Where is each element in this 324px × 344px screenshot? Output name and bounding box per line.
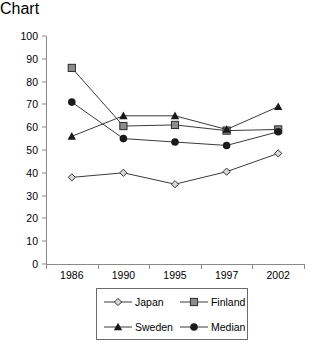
y-tick-label: 70 (26, 98, 38, 110)
data-point-open-diamond (114, 298, 121, 305)
data-point-black-circle (68, 98, 76, 106)
legend-label: Sweden (135, 321, 173, 333)
x-tick-mark (98, 264, 99, 269)
y-tick-mark (42, 127, 46, 128)
legend-item-finland[interactable]: Finland (173, 289, 247, 314)
x-tick-label: 1990 (112, 269, 135, 281)
y-tick-label: 100 (20, 30, 38, 42)
data-point-black-circle (223, 142, 231, 150)
legend-marker-black-circle (179, 321, 209, 333)
data-point-open-diamond (275, 150, 282, 157)
series-line (72, 107, 278, 137)
legend-item-japan[interactable]: Japan (97, 289, 173, 314)
x-tick-mark (201, 264, 202, 269)
x-tick-label: 2002 (267, 269, 290, 281)
data-point-gray-square (223, 127, 230, 134)
y-tick-mark (42, 172, 46, 173)
series-japan (68, 150, 282, 188)
x-axis-line (46, 264, 304, 265)
series-finland (68, 64, 282, 134)
x-tick-mark (304, 264, 305, 269)
y-tick-label: 90 (26, 53, 38, 65)
y-tick-mark (42, 150, 46, 151)
x-tick-mark (252, 264, 253, 269)
legend-marker-open-diamond (103, 296, 133, 308)
data-point-gray-square (190, 298, 197, 305)
legend-marker-gray-square (179, 296, 209, 308)
data-point-gray-square (120, 122, 127, 129)
data-point-black-triangle (171, 112, 179, 120)
x-tick-mark (46, 264, 47, 269)
y-tick-label: 50 (26, 144, 38, 156)
data-point-gray-square (275, 126, 282, 133)
data-point-open-diamond (120, 169, 127, 176)
y-tick-mark (42, 81, 46, 82)
series-median (68, 98, 282, 149)
y-axis-line (46, 36, 47, 264)
y-tick-mark (42, 195, 46, 196)
data-point-gray-square (171, 121, 178, 128)
data-point-open-diamond (171, 181, 178, 188)
legend-marker-black-triangle (103, 321, 133, 333)
y-tick-mark (42, 218, 46, 219)
series-line (72, 153, 278, 184)
data-point-black-triangle (222, 125, 230, 133)
data-point-black-circle (120, 135, 128, 143)
y-tick-mark (42, 104, 46, 105)
y-tick-label: 80 (26, 76, 38, 88)
data-point-black-triangle (119, 112, 127, 120)
legend-item-median[interactable]: Median (173, 314, 247, 339)
data-point-black-circle (171, 138, 179, 146)
x-tick-label: 1986 (60, 269, 83, 281)
data-point-open-diamond (223, 168, 230, 175)
y-tick-label: 30 (26, 190, 38, 202)
y-tick-label: 20 (26, 212, 38, 224)
data-point-black-triangle (68, 132, 76, 140)
series-line (72, 102, 278, 145)
y-tick-mark (42, 36, 46, 37)
data-point-black-circle (274, 128, 282, 136)
data-point-black-triangle (274, 102, 282, 110)
data-point-black-circle (190, 323, 198, 331)
y-tick-label: 40 (26, 167, 38, 179)
y-tick-label: 0 (32, 258, 38, 270)
legend-label: Median (211, 321, 245, 333)
series-sweden (68, 102, 283, 139)
x-tick-mark (149, 264, 150, 269)
y-tick-label: 10 (26, 235, 38, 247)
y-tick-label: 60 (26, 121, 38, 133)
data-point-gray-square (68, 64, 75, 71)
legend-label: Japan (135, 296, 164, 308)
chart-legend: JapanFinlandSwedenMedian (96, 288, 248, 340)
y-tick-mark (42, 241, 46, 242)
legend-label: Finland (211, 296, 245, 308)
x-tick-label: 1997 (215, 269, 238, 281)
series-line (72, 68, 278, 131)
y-tick-mark (42, 58, 46, 59)
line-chart: 0102030405060708090100 19861990199519972… (0, 18, 324, 344)
data-point-open-diamond (68, 174, 75, 181)
legend-item-sweden[interactable]: Sweden (97, 314, 173, 339)
x-tick-label: 1995 (163, 269, 186, 281)
